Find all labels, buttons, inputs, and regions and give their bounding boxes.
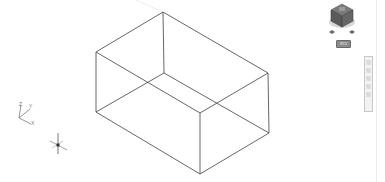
- box-edge-right: [268, 73, 269, 133]
- viewport-edge-divider: [376, 0, 377, 182]
- compass-right-arrow-icon[interactable]: [349, 30, 355, 34]
- wcs-menu-button[interactable]: WCS: [336, 40, 351, 48]
- ucs-y-label: Y: [29, 103, 33, 109]
- pan-button[interactable]: [366, 68, 371, 73]
- viewcube[interactable]: [326, 2, 358, 36]
- crosshair-cursor-icon: [50, 133, 67, 154]
- box-top-face: [96, 12, 268, 113]
- ucs-z-label: Z: [19, 101, 22, 107]
- zoom-button[interactable]: [366, 76, 371, 81]
- viewcube-icon[interactable]: [326, 2, 358, 36]
- navigation-bar[interactable]: [364, 56, 373, 112]
- wireframe-box[interactable]: [96, 12, 269, 174]
- drawing-viewport[interactable]: Z Y X WCS: [0, 0, 385, 182]
- showmotion-button[interactable]: [366, 92, 371, 97]
- orbit-button[interactable]: [366, 84, 371, 89]
- box-edge-back: [163, 12, 164, 73]
- ucs-x-label: X: [31, 120, 35, 126]
- navigation-wheel-button[interactable]: [366, 60, 371, 65]
- cursor-extension-line: [136, 0, 163, 12]
- compass-left-arrow-icon[interactable]: [329, 30, 335, 34]
